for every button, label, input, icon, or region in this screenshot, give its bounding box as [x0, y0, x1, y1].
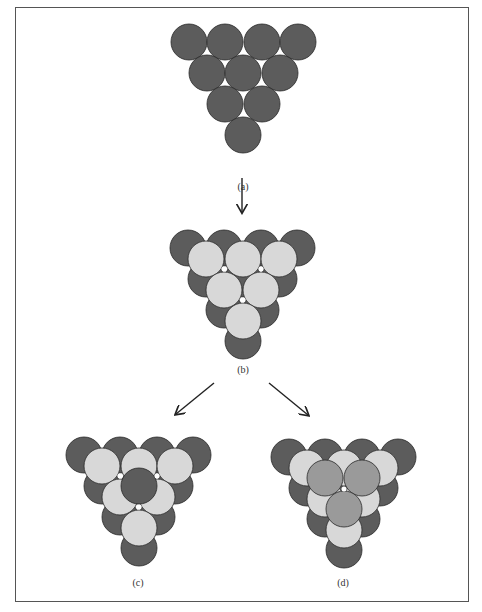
- dark-sphere: [262, 55, 298, 91]
- light-sphere: [157, 448, 193, 484]
- dark-sphere: [189, 55, 225, 91]
- mid-sphere: [326, 491, 362, 527]
- light-sphere: [188, 241, 224, 277]
- dark-sphere: [225, 55, 261, 91]
- light-sphere: [225, 241, 261, 277]
- interstitial-hole: [155, 474, 160, 479]
- arrow-b-to-c-icon: [176, 383, 214, 414]
- panel-label-b: (b): [237, 364, 249, 375]
- dark-sphere: [121, 468, 157, 504]
- dark-sphere: [171, 24, 207, 60]
- panel-label-c: (c): [132, 577, 143, 588]
- panel-a: [171, 24, 316, 153]
- panel-c: [66, 437, 211, 566]
- dark-sphere: [244, 24, 280, 60]
- interstitial-hole: [118, 474, 123, 479]
- panel-label-a: (a): [237, 181, 248, 192]
- interstitial-hole: [259, 267, 264, 272]
- mid-sphere: [344, 460, 380, 496]
- panel-label-d: (d): [337, 577, 349, 588]
- sphere-packing-diagram: [0, 0, 482, 612]
- arrow-b-to-d-icon: [269, 383, 308, 415]
- light-sphere: [206, 272, 242, 308]
- dark-sphere: [280, 24, 316, 60]
- dark-sphere: [207, 24, 243, 60]
- interstitial-hole: [241, 298, 246, 303]
- light-sphere: [121, 510, 157, 546]
- interstitial-hole: [342, 487, 347, 492]
- light-sphere: [84, 448, 120, 484]
- light-sphere: [243, 272, 279, 308]
- interstitial-hole: [222, 267, 227, 272]
- dark-sphere: [225, 117, 261, 153]
- panel-d: [271, 439, 416, 568]
- light-sphere: [261, 241, 297, 277]
- light-sphere: [225, 303, 261, 339]
- panel-b: [170, 230, 315, 359]
- mid-sphere: [307, 460, 343, 496]
- dark-sphere: [207, 86, 243, 122]
- interstitial-hole: [137, 505, 142, 510]
- dark-sphere: [244, 86, 280, 122]
